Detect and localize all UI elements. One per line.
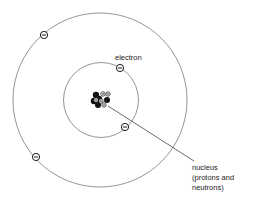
nucleus [91,92,110,108]
electron-label: electron [115,53,142,62]
nucleus-label-line-2: (protons and [192,173,234,182]
electron [116,64,123,71]
proton [94,98,98,102]
proton [99,99,103,103]
atom-diagram: electron nucleus (protons and neutrons) [0,0,256,211]
electron [32,153,39,160]
electron [40,31,47,38]
nucleus-leader-line [108,106,194,161]
neutron [104,97,110,103]
proton [102,103,106,107]
electron [121,123,128,130]
proton [106,92,110,96]
nucleus-label-line-3: neutrons) [192,183,224,192]
nucleus-label-line-1: nucleus [192,163,218,172]
proton [101,92,105,96]
